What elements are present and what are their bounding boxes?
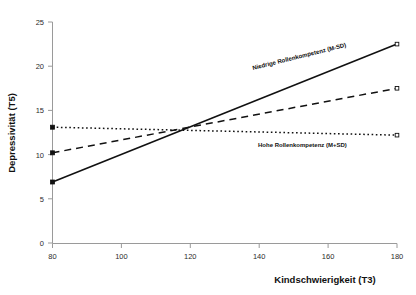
series-line-1-solid: [53, 44, 398, 182]
chart-page: Depressivität (T5) Kindschwierigkeit (T3…: [0, 0, 416, 295]
y-axis-title: Depressivität (T5): [6, 93, 17, 173]
series-annotations: Niedrige Rollenkompetenz (M-SD) Hohe Rol…: [252, 42, 347, 148]
series-line-3-dotted: [53, 127, 398, 135]
data-point-marker: [51, 125, 55, 129]
y-tick-label-20: 20: [36, 62, 44, 71]
data-point-marker: [51, 151, 55, 155]
regression-interaction-chart: Depressivität (T5) Kindschwierigkeit (T3…: [0, 0, 416, 295]
x-tick-label-80: 80: [48, 252, 56, 261]
y-axis-ticks: 25 20 15 10 5 0: [36, 18, 53, 248]
y-tick-label-25: 25: [36, 18, 44, 27]
series-label-low-competence: Niedrige Rollenkompetenz (M-SD): [252, 42, 347, 71]
data-point-marker: [395, 87, 399, 91]
x-tick-label-140: 140: [253, 252, 266, 261]
series-label-high-competence: Hohe Rollenkompetenz (M+SD): [258, 142, 347, 148]
y-tick-label-15: 15: [36, 106, 44, 115]
y-tick-label-0: 0: [40, 239, 44, 248]
data-point-marker: [395, 133, 399, 137]
y-tick-label-10: 10: [36, 151, 44, 160]
x-tick-label-180: 180: [391, 252, 404, 261]
x-axis-title: Kindschwierigkeit (T3): [274, 274, 375, 285]
y-tick-label-5: 5: [40, 195, 44, 204]
data-point-marker: [395, 42, 399, 46]
x-tick-label-120: 120: [184, 252, 197, 261]
data-point-marker: [51, 180, 55, 184]
x-axis-ticks: 80 100 120 140 160 180: [48, 244, 403, 262]
x-tick-label-160: 160: [322, 252, 335, 261]
x-tick-label-100: 100: [115, 252, 128, 261]
series-layer: [51, 42, 399, 184]
